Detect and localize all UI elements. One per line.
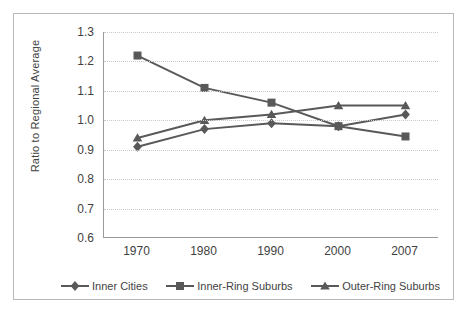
y-axis-tick-labels: 0.60.70.80.91.01.11.21.3: [58, 32, 98, 238]
legend-item[interactable]: Outer-Ring Suburbs: [310, 280, 440, 292]
gridline: [104, 120, 438, 121]
plot-area: [103, 32, 438, 238]
square-marker: [335, 122, 343, 130]
x-axis-tick-label: 1980: [190, 244, 217, 258]
triangle-marker-icon: [310, 280, 340, 292]
y-axis-tick-label: 0.6: [77, 231, 94, 245]
square-marker-icon: [165, 280, 195, 292]
legend-item[interactable]: Inner-Ring Suburbs: [165, 280, 292, 292]
y-axis-tick-label: 0.8: [77, 172, 94, 186]
diamond-marker: [401, 109, 410, 119]
square-marker: [402, 132, 410, 140]
legend-label: Inner-Ring Suburbs: [196, 280, 292, 292]
y-axis-tick-label: 0.7: [77, 202, 94, 216]
x-axis-tick-label: 1990: [257, 244, 284, 258]
gridline: [104, 91, 438, 92]
series-lines: [104, 32, 439, 238]
y-axis-tick-label: 1.3: [77, 25, 94, 39]
gridline: [104, 179, 438, 180]
y-axis-tick-label: 0.9: [77, 143, 94, 157]
gridline: [104, 150, 438, 151]
chart-figure: Ratio to Regional Average 0.60.70.80.91.…: [0, 0, 467, 316]
gridline: [104, 32, 438, 33]
y-axis-tick-label: 1.1: [77, 84, 94, 98]
chart-legend: Inner CitiesInner-Ring SuburbsOuter-Ring…: [60, 276, 440, 296]
x-axis-tick-label: 1970: [123, 244, 150, 258]
x-axis-tick-label: 2000: [324, 244, 351, 258]
gridline: [104, 61, 438, 62]
square-marker: [134, 52, 142, 60]
y-axis-tick-label: 1.2: [77, 54, 94, 68]
diamond-marker-icon: [60, 280, 90, 292]
x-axis-tick-labels: 19701980199020002007: [103, 244, 438, 262]
legend-label: Outer-Ring Suburbs: [341, 280, 440, 292]
legend-label: Inner Cities: [91, 280, 148, 292]
diamond-marker: [200, 124, 209, 134]
diamond-marker: [71, 281, 80, 291]
legend-item[interactable]: Inner Cities: [60, 280, 148, 292]
square-marker: [268, 99, 276, 107]
y-axis-title: Ratio to Regional Average: [29, 11, 41, 201]
y-axis-tick-label: 1.0: [77, 113, 94, 127]
gridline: [104, 209, 438, 210]
square-marker: [176, 282, 184, 290]
x-axis-tick-label: 2007: [391, 244, 418, 258]
